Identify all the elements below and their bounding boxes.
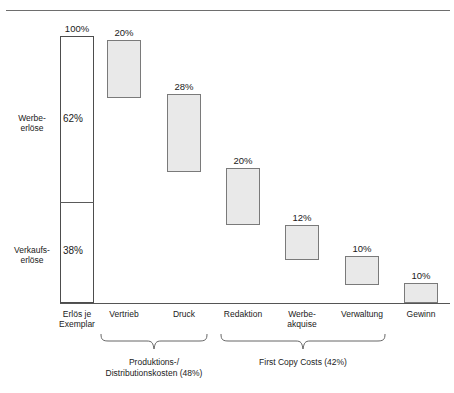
bar-segment-divider-werbe-verkauf [60,202,94,203]
group-caption-first-copy-costs: First Copy Costs (42%) [243,357,363,368]
x-axis-baseline [60,303,450,304]
category-label-erloes-je-exemplar-line2: Exemplar [48,319,106,330]
side-label-verkaufserloese-line2: erlöse [5,255,59,265]
segment-value-verkaufserloese: 38% [63,245,83,257]
side-label-werbeerloese-line2: erlöse [8,123,56,133]
bar-value-vertrieb: 20% [107,27,141,38]
bar-value-druck: 28% [167,81,201,92]
bar-value-werbeakquise: 12% [285,212,319,223]
category-label-werbeakquise-line1: Werbe- [273,309,331,320]
side-label-verkaufserloese-line1: Verkaufs- [5,245,59,255]
bar-verwaltung [345,256,379,285]
bar-erloes-je-exemplar [60,36,94,303]
bar-value-redaktion: 20% [226,155,260,166]
bar-value-gewinn: 10% [404,270,438,281]
category-label-redaktion: Redaktion [211,309,275,320]
segment-value-werbeerloese: 62% [63,113,83,125]
bar-value-verwaltung: 10% [345,243,379,254]
chart-canvas: 100% 62% 38% Werbe- erlöse Verkaufs- erl… [0,0,454,393]
bar-value-erloes-je-exemplar: 100% [60,23,94,34]
group-brace-first-copy-costs [220,334,386,350]
group-caption-produktions-line2: Distributionskosten (48%) [74,368,234,379]
bar-werbeakquise [285,225,319,260]
bar-vertrieb [107,40,141,98]
bar-redaktion [226,168,260,225]
group-brace-produktions-distributionskosten [100,334,208,350]
category-label-vertrieb: Vertrieb [95,309,153,320]
category-label-verwaltung: Verwaltung [328,309,396,320]
bar-druck [167,94,201,172]
category-label-gewinn: Gewinn [392,309,450,320]
bar-gewinn [404,283,438,303]
waterfall-chart-plot: 100% 62% 38% Werbe- erlöse Verkaufs- erl… [0,0,454,393]
side-label-werbeerloese-line1: Werbe- [8,113,56,123]
group-caption-produktions-line1: Produktions-/ [74,357,234,368]
category-label-druck: Druck [155,309,213,320]
category-label-werbeakquise-line2: akquise [273,319,331,330]
